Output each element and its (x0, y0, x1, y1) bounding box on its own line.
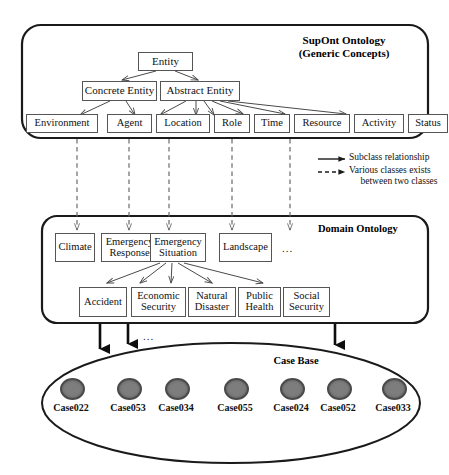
case-label: Case022 (40, 402, 102, 413)
legend-dashed-label: Various classes exists between two class… (349, 165, 449, 186)
domain-ontology-title: Domain Ontology (318, 223, 418, 235)
node-role[interactable]: Role (214, 114, 250, 133)
case-label: Case052 (307, 402, 369, 413)
node-abstract-entity[interactable]: Abstract Entity (160, 81, 240, 101)
case-dot[interactable] (60, 378, 85, 400)
case-label: Case055 (204, 402, 266, 413)
node-time[interactable]: Time (254, 114, 290, 133)
legend-dashed-label-line2: between two classes (349, 176, 449, 187)
case-dot[interactable] (327, 378, 352, 400)
node-activity[interactable]: Activity (354, 114, 404, 133)
node-social-security[interactable]: Social Security (283, 287, 330, 317)
case-dot[interactable] (224, 378, 249, 400)
node-environment[interactable]: Environment (26, 114, 98, 133)
case-base-title: Case Base (260, 355, 332, 367)
case-label: Case034 (145, 402, 207, 413)
node-resource[interactable]: Resource (294, 114, 350, 133)
node-accident[interactable]: Accident (79, 287, 127, 317)
case-dot[interactable] (280, 378, 305, 400)
case-dot[interactable] (117, 378, 142, 400)
supont-title-line2: (Generic Concepts) (268, 47, 420, 60)
domain-subclass-arrows (107, 263, 263, 283)
node-emergency-situation[interactable]: Emergency Situation (150, 233, 206, 262)
case-dot[interactable] (165, 378, 190, 400)
node-agent[interactable]: Agent (107, 114, 152, 133)
legend-dashed-label-line1: Various classes exists (349, 165, 449, 176)
node-landscape[interactable]: Landscape (219, 233, 272, 262)
domain-row1-ellipsis: ... (282, 242, 293, 254)
legend-solid-label: Subclass relationship (349, 152, 429, 163)
node-concrete-entity[interactable]: Concrete Entity (82, 81, 157, 101)
case-label: Case033 (362, 402, 424, 413)
supont-title-line1: SupOnt Ontology (268, 34, 420, 47)
node-natural-disaster[interactable]: Natural Disaster (188, 287, 236, 317)
node-climate[interactable]: Climate (55, 233, 95, 262)
domain-to-case-base-arrows (100, 324, 335, 349)
node-entity[interactable]: Entity (138, 52, 193, 71)
node-status[interactable]: Status (408, 114, 448, 133)
case-base-ellipsis: ... (143, 330, 154, 342)
node-location[interactable]: Location (156, 114, 210, 133)
ontology-case-base-diagram: SupOnt Ontology (Generic Concepts) Entit… (0, 0, 449, 475)
supont-title: SupOnt Ontology (Generic Concepts) (268, 34, 420, 59)
node-economic-security[interactable]: Economic Security (131, 287, 186, 317)
case-dot[interactable] (382, 378, 407, 400)
node-public-health[interactable]: Public Health (238, 287, 281, 317)
legend-lines (318, 159, 345, 172)
